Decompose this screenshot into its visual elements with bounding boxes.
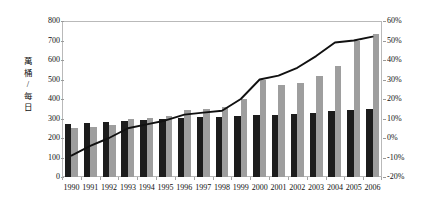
x-axis-tick-mark <box>213 177 214 180</box>
x-axis-label: 2000 <box>250 182 269 193</box>
x-axis-label: 2005 <box>344 182 363 193</box>
x-axis-label: 1991 <box>81 182 100 193</box>
y-axis-left-ticks: 0100200300400500600700800 <box>38 21 60 177</box>
x-axis-label: 1994 <box>137 182 156 193</box>
y-axis-right-ticks: -20%-10%0%10%20%30%40%50%60% <box>387 21 415 177</box>
y-axis-right-tick-label: 30% <box>387 75 402 85</box>
x-axis-label: 1998 <box>213 182 232 193</box>
y-axis-left-tick-label: 0 <box>56 172 60 182</box>
y-axis-right-tick-mark <box>383 119 386 120</box>
y-axis-right-tick-label: 50% <box>387 36 402 46</box>
y-axis-right-tick-mark <box>383 41 386 42</box>
y-axis-right-tick-mark <box>383 138 386 139</box>
growth-line-path <box>71 37 372 156</box>
x-axis-tick-mark <box>250 177 251 180</box>
x-axis-tick-mark <box>62 177 63 180</box>
x-axis-label: 1995 <box>156 182 175 193</box>
y-axis-title-char: 日 <box>24 102 33 114</box>
y-axis-right-tick-label: -20% <box>387 172 404 182</box>
line-series-layer <box>62 21 382 177</box>
x-axis-label: 1993 <box>118 182 137 193</box>
chart-container: 萬桶/每日 0100200300400500600700800 -20%-10%… <box>0 0 431 210</box>
x-axis-tick-mark <box>269 177 270 180</box>
x-axis-label: 1996 <box>175 182 194 193</box>
y-axis-right-tick-mark <box>383 177 386 178</box>
x-axis-tick-mark <box>100 177 101 180</box>
x-axis-tick-mark <box>175 177 176 180</box>
y-axis-right-tick-label: 10% <box>387 114 402 124</box>
y-axis-right-tick-mark <box>383 99 386 100</box>
x-axis-label: 1999 <box>231 182 250 193</box>
y-axis-title-char: / <box>27 79 29 91</box>
x-axis-tick-mark <box>81 177 82 180</box>
x-axis-label: 1992 <box>100 182 119 193</box>
y-axis-title-char: 每 <box>24 91 33 103</box>
y-axis-right-tick-label: 20% <box>387 94 402 104</box>
y-axis-left-tick-label: 800 <box>48 16 60 26</box>
x-axis-label: 2006 <box>363 182 382 193</box>
y-axis-left-tick-label: 700 <box>48 36 60 46</box>
x-axis-tick-mark <box>326 177 327 180</box>
y-axis-left-tick-label: 600 <box>48 55 60 65</box>
y-axis-left-tick-label: 500 <box>48 75 60 85</box>
y-axis-right-tick-mark <box>383 21 386 22</box>
x-axis-tick-mark <box>344 177 345 180</box>
x-axis-tick-mark <box>231 177 232 180</box>
x-axis-labels: 1990199119921993199419951996199719981999… <box>62 182 382 196</box>
x-axis-tick-mark <box>363 177 364 180</box>
x-axis-label: 2001 <box>269 182 288 193</box>
x-axis-label: 1997 <box>194 182 213 193</box>
y-axis-right-tick-mark <box>383 60 386 61</box>
y-axis-right-tick-label: 60% <box>387 16 402 26</box>
x-axis-tick-mark <box>288 177 289 180</box>
y-axis-right-tick-mark <box>383 158 386 159</box>
x-axis-tick-mark <box>156 177 157 180</box>
y-axis-left-tick-label: 300 <box>48 114 60 124</box>
y-axis-right-tick-label: 0% <box>387 133 398 143</box>
x-axis-tick-mark <box>381 177 382 180</box>
y-axis-right-tick-label: -10% <box>387 153 404 163</box>
y-axis-left-tick-label: 400 <box>48 94 60 104</box>
y-axis-right-tick-mark <box>383 80 386 81</box>
y-axis-title-char: 萬 <box>24 56 33 68</box>
x-axis-label: 2004 <box>326 182 345 193</box>
x-axis-label: 2002 <box>288 182 307 193</box>
y-axis-left-tick-label: 100 <box>48 153 60 163</box>
y-axis-title: 萬桶/每日 <box>18 56 38 114</box>
x-axis-tick-mark <box>194 177 195 180</box>
y-axis-left-tick-label: 200 <box>48 133 60 143</box>
y-axis-right-tick-label: 40% <box>387 55 402 65</box>
x-axis-tick-mark <box>118 177 119 180</box>
y-axis-title-char: 桶 <box>24 68 33 80</box>
x-axis-label: 1990 <box>62 182 81 193</box>
x-axis-tick-mark <box>137 177 138 180</box>
x-axis-label: 2003 <box>307 182 326 193</box>
x-axis-tick-mark <box>307 177 308 180</box>
